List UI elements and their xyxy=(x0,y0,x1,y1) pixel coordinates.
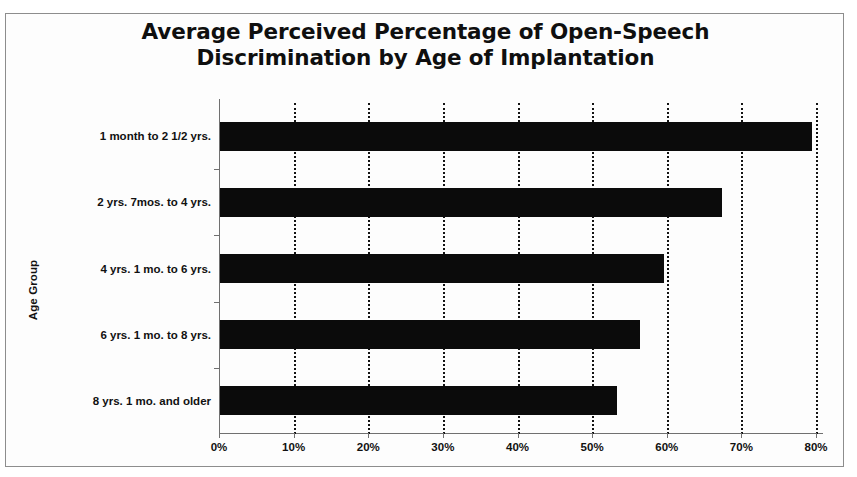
y-tick xyxy=(214,368,219,369)
category-label: 8 yrs. 1 mo. and older xyxy=(11,394,211,408)
plot-area: 1 month to 2 1/2 yrs.2 yrs. 7mos. to 4 y… xyxy=(219,103,816,434)
x-axis-label: 20% xyxy=(338,441,398,453)
gridline-70% xyxy=(741,103,743,434)
x-tick-0% xyxy=(219,433,220,438)
x-tick-70% xyxy=(741,433,742,438)
chart-title-line-2: Discrimination by Age of Implantation xyxy=(6,45,845,71)
x-axis-label: 60% xyxy=(637,441,697,453)
x-axis-label: 80% xyxy=(786,441,846,453)
bar[interactable] xyxy=(220,122,812,151)
category-label: 1 month to 2 1/2 yrs. xyxy=(11,129,211,143)
gridline-60% xyxy=(667,103,669,434)
x-tick-40% xyxy=(518,433,519,438)
category-label: 6 yrs. 1 mo. to 8 yrs. xyxy=(11,328,211,342)
chart-frame: Average Perceived Percentage of Open-Spe… xyxy=(5,13,844,467)
category-label: 4 yrs. 1 mo. to 6 yrs. xyxy=(11,262,211,276)
chart-title: Average Perceived Percentage of Open-Spe… xyxy=(6,19,845,71)
bar[interactable] xyxy=(220,254,664,283)
x-axis-label: 10% xyxy=(264,441,324,453)
x-axis-line xyxy=(219,433,823,434)
y-tick xyxy=(214,169,219,170)
x-tick-20% xyxy=(368,433,369,438)
y-tick xyxy=(214,235,219,236)
x-axis-label: 50% xyxy=(562,441,622,453)
bar[interactable] xyxy=(220,188,722,217)
x-axis-label: 0% xyxy=(189,441,249,453)
x-axis-label: 30% xyxy=(413,441,473,453)
x-tick-50% xyxy=(592,433,593,438)
category-label: 2 yrs. 7mos. to 4 yrs. xyxy=(11,195,211,209)
x-tick-60% xyxy=(667,433,668,438)
x-tick-10% xyxy=(294,433,295,438)
x-tick-30% xyxy=(443,433,444,438)
x-tick-80% xyxy=(816,433,817,438)
x-axis-label: 40% xyxy=(488,441,548,453)
chart-title-line-1: Average Perceived Percentage of Open-Spe… xyxy=(6,19,845,45)
y-tick xyxy=(214,302,219,303)
x-axis-label: 70% xyxy=(711,441,771,453)
gridline-80% xyxy=(816,103,818,434)
bar[interactable] xyxy=(220,386,617,415)
bar[interactable] xyxy=(220,320,640,349)
